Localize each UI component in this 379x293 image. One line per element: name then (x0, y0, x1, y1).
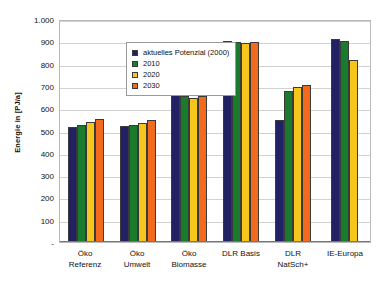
bar (129, 125, 138, 242)
legend-label: 2010 (143, 59, 160, 68)
x-tick-label-line: DLR Basis (215, 248, 267, 259)
legend-label: 2020 (143, 70, 160, 79)
x-tick-label-line: Referenz (59, 259, 111, 270)
bar-group (60, 21, 112, 242)
bar (198, 96, 207, 243)
bar (171, 91, 180, 242)
legend-swatch (132, 61, 138, 67)
y-tick-label: 300 (14, 172, 54, 181)
bar (95, 119, 104, 242)
bar (77, 125, 86, 242)
x-tick-label: DLR Basis (215, 248, 267, 290)
bar (86, 122, 95, 242)
y-tick-label: 800 (14, 60, 54, 69)
x-axis-tick-labels: ÖkoReferenzÖkoUmweltÖkoBiomasseDLR Basis… (59, 248, 371, 290)
plot-area: aktuelles Potenzial (2000)201020202030 (59, 20, 371, 243)
y-tick-label: 100 (14, 216, 54, 225)
bar (293, 87, 302, 242)
bar (302, 85, 311, 242)
y-tick-label: 400 (14, 149, 54, 158)
bar (275, 120, 284, 242)
x-tick-label-line: Öko (111, 248, 163, 259)
y-tick-label: - (14, 239, 54, 248)
legend-label: aktuelles Potenzial (2000) (143, 48, 229, 57)
bar (138, 123, 147, 242)
x-tick-label: ÖkoUmwelt (111, 248, 163, 290)
legend-item: aktuelles Potenzial (2000) (132, 47, 229, 58)
bar (349, 60, 358, 242)
x-tick-label-line: Umwelt (111, 259, 163, 270)
legend-swatch (132, 72, 138, 78)
x-tick-label-line: Öko (163, 248, 215, 259)
legend: aktuelles Potenzial (2000)201020202030 (126, 42, 236, 96)
x-tick-label-line: IE-Europa (319, 248, 371, 259)
axis-baseline (60, 241, 370, 242)
legend-swatch (132, 50, 138, 56)
y-axis-tick-labels: 1.000900800700600500400300200100- (14, 20, 54, 243)
x-tick-label-line: Biomasse (163, 259, 215, 270)
x-tick-label-line: NatSch+ (267, 259, 319, 270)
legend-item: 2020 (132, 69, 229, 80)
bar-group (318, 21, 370, 242)
y-tick-label: 1.000 (14, 16, 54, 25)
y-tick-label: 700 (14, 82, 54, 91)
bar (331, 39, 340, 242)
bar (147, 120, 156, 242)
legend-item: 2030 (132, 80, 229, 91)
y-tick-label: 600 (14, 105, 54, 114)
bar (68, 127, 77, 243)
bar-group (267, 21, 319, 242)
legend-item: 2010 (132, 58, 229, 69)
bar (284, 91, 293, 242)
bar (340, 41, 349, 242)
y-tick-label: 900 (14, 38, 54, 47)
bar (180, 96, 189, 242)
x-tick-label: DLRNatSch+ (267, 248, 319, 290)
y-tick-label: 200 (14, 194, 54, 203)
bar (120, 126, 129, 242)
bar (241, 43, 250, 242)
bar (189, 98, 198, 242)
bar-chart: Energie in [PJ/a] 1.00090080070060050040… (0, 0, 379, 293)
x-tick-label-line: Öko (59, 248, 111, 259)
legend-label: 2030 (143, 81, 160, 90)
x-tick-label: ÖkoReferenz (59, 248, 111, 290)
legend-swatch (132, 83, 138, 89)
bar (250, 42, 259, 242)
x-tick-label: ÖkoBiomasse (163, 248, 215, 290)
x-tick-label-line: DLR (267, 248, 319, 259)
y-tick-label: 500 (14, 127, 54, 136)
x-tick-label: IE-Europa (319, 248, 371, 290)
